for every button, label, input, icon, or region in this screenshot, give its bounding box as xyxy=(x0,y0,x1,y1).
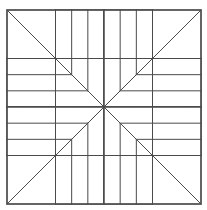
blazing-star-quilt-drawing: Line-art coloring-page diagram of an eig… xyxy=(0,0,207,210)
corner-block-top-right xyxy=(153,10,202,59)
quilt-block-canvas: Line-art coloring-page diagram of an eig… xyxy=(0,0,207,210)
corner-block-bottom-right xyxy=(153,156,202,205)
corner-block-top-left xyxy=(7,10,56,59)
corner-block-bottom-left xyxy=(7,156,56,205)
quilt-line-art xyxy=(7,10,201,204)
